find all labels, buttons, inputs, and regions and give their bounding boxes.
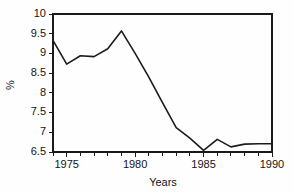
x-axis-tick-labels: 1975198019851990 bbox=[54, 158, 284, 170]
y-tick-label: 6.5 bbox=[31, 145, 46, 157]
line-chart: 6.577.588.599.510 1975198019851990 Years… bbox=[0, 0, 294, 194]
x-axis-title: Years bbox=[149, 176, 177, 188]
y-tick-label: 7.5 bbox=[31, 105, 46, 117]
chart-canvas: 6.577.588.599.510 1975198019851990 Years… bbox=[0, 0, 294, 194]
y-tick-label: 8 bbox=[40, 86, 46, 98]
axis-frame bbox=[53, 14, 272, 152]
data-series-line bbox=[53, 31, 272, 150]
y-tick-label: 8.5 bbox=[31, 66, 46, 78]
y-axis-title: % bbox=[4, 80, 16, 90]
x-tick-label: 1990 bbox=[260, 158, 284, 170]
x-tick-label: 1985 bbox=[191, 158, 215, 170]
y-axis-tick-marks bbox=[49, 14, 53, 152]
y-axis-tick-labels: 6.577.588.599.510 bbox=[31, 7, 46, 157]
x-axis-tick-marks bbox=[53, 152, 272, 157]
y-tick-label: 7 bbox=[40, 125, 46, 137]
x-tick-label: 1975 bbox=[54, 158, 78, 170]
x-tick-label: 1980 bbox=[123, 158, 147, 170]
y-tick-label: 9 bbox=[40, 46, 46, 58]
y-tick-label: 10 bbox=[34, 7, 46, 19]
y-tick-label: 9.5 bbox=[31, 27, 46, 39]
